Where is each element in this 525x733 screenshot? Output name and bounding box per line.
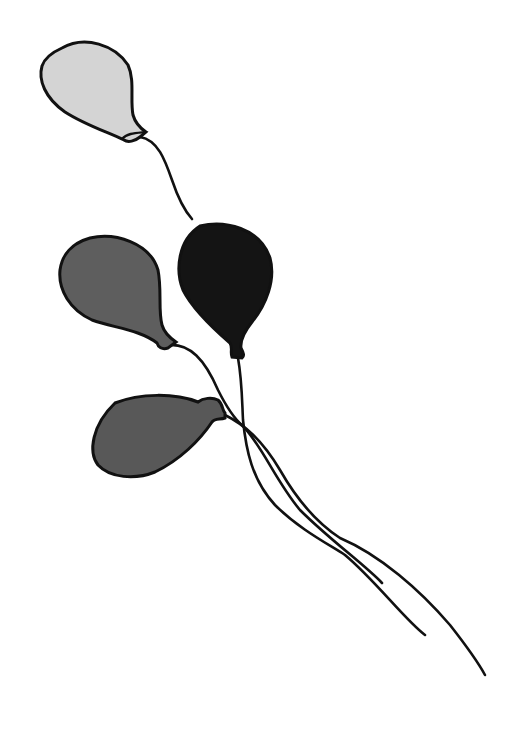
- black-balloon: [179, 224, 272, 358]
- string-light-balloon: [140, 137, 192, 219]
- lower-gray-balloon: [93, 395, 225, 476]
- balloons-illustration: [0, 0, 525, 733]
- string-black-balloon: [238, 358, 425, 635]
- light-gray-balloon: [41, 42, 146, 141]
- medium-gray-balloon: [60, 236, 176, 348]
